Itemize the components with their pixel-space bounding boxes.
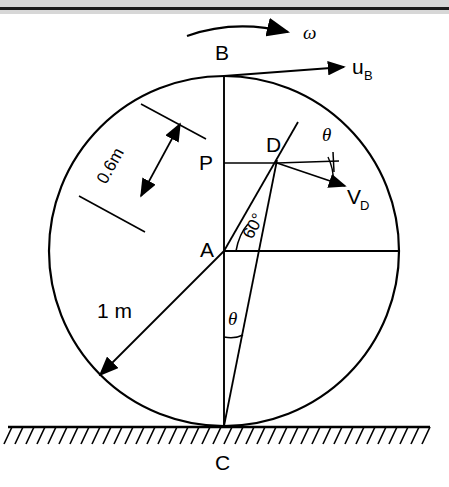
theta-bottom-label: θ xyxy=(228,308,237,329)
dim-1m-label: 1 m xyxy=(97,299,132,322)
theta-top-label: θ xyxy=(322,124,331,145)
theta-top-arc xyxy=(328,157,333,180)
dim-06m-extension-upper xyxy=(141,104,206,139)
physics-diagram: ω B u B P D A θ V D 60° θ 0.6m 1 m xyxy=(0,0,449,487)
point-c-label: C xyxy=(215,451,230,474)
omega-rotation-arrow xyxy=(187,26,288,36)
velocity-vd-label: V xyxy=(347,185,361,208)
ground-hatching xyxy=(4,427,430,444)
dim-06m-extension-lower xyxy=(79,196,145,232)
angle-60-label: 60° xyxy=(239,210,268,242)
point-b-label: B xyxy=(215,41,229,64)
velocity-ub-arrow xyxy=(224,67,344,76)
point-a-label: A xyxy=(200,238,214,261)
point-p-label: P xyxy=(199,151,213,174)
velocity-vd-subscript: D xyxy=(360,198,369,213)
theta-reference-tick xyxy=(333,152,334,172)
velocity-vd-arrow xyxy=(277,163,345,186)
chord-line-cd xyxy=(224,160,277,426)
dim-06m-double-arrow xyxy=(141,124,180,196)
velocity-ub-subscript: B xyxy=(364,68,373,83)
omega-label: ω xyxy=(303,22,316,43)
dim-06m-label: 0.6m xyxy=(93,145,128,187)
point-d-label: D xyxy=(266,133,281,156)
theta-bottom-arc xyxy=(224,335,243,338)
velocity-ub-label: u xyxy=(352,55,364,78)
radius-line-ad xyxy=(224,122,298,251)
